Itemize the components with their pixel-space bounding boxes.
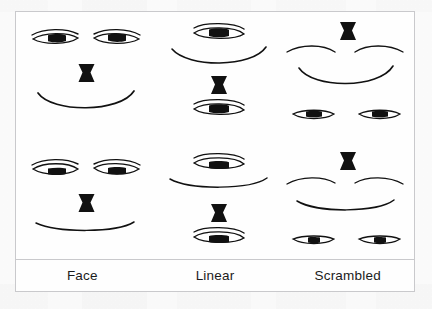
left-eye-icon: [293, 110, 334, 118]
right-brow-icon: [355, 46, 403, 52]
mouth-icon: [36, 222, 134, 230]
stimulus-scrambled-neutral: [279, 148, 411, 254]
left-brow-icon: [287, 178, 335, 184]
stimulus-drawing: [279, 148, 411, 254]
stimulus-drawing: [279, 16, 411, 130]
stimulus-drawing: [24, 152, 149, 252]
top-eye-icon: [194, 24, 244, 39]
stimuli-grid: [16, 12, 414, 259]
nose-icon: [211, 204, 227, 222]
right-eye-icon: [359, 110, 400, 118]
stimulus-face-neutral: [24, 152, 149, 252]
stimulus-drawing: [156, 18, 281, 130]
left-eye-icon: [293, 236, 334, 244]
right-eye-icon: [94, 160, 140, 175]
left-brow-icon: [287, 46, 335, 52]
bottom-eye-icon: [194, 100, 244, 115]
stimulus-linear-smiling: [156, 18, 281, 130]
left-eye-icon: [32, 30, 78, 44]
figure-frame: Face Linear Scrambled: [15, 11, 415, 292]
column-label-face: Face: [16, 260, 149, 291]
stimulus-scrambled-smiling: [279, 16, 411, 130]
left-eye-icon: [32, 160, 78, 175]
mouth-icon: [299, 66, 393, 84]
column-label-linear: Linear: [149, 260, 282, 291]
nose-icon: [79, 194, 95, 212]
stimulus-linear-neutral: [156, 150, 281, 254]
mouth-icon: [38, 91, 134, 108]
column-label-scrambled: Scrambled: [281, 260, 414, 291]
stimulus-drawing: [24, 20, 149, 130]
figure-container: Face Linear Scrambled: [0, 0, 432, 309]
right-eye-icon: [94, 30, 140, 44]
nose-icon: [211, 76, 227, 94]
nose-icon: [340, 152, 356, 170]
bottom-eye-icon: [194, 228, 244, 243]
nose-icon: [79, 64, 95, 82]
mouth-icon: [297, 200, 394, 210]
right-eye-icon: [359, 236, 400, 244]
right-brow-icon: [355, 178, 403, 184]
nose-icon: [340, 22, 356, 40]
top-eye-icon: [194, 154, 244, 169]
column-label-row: Face Linear Scrambled: [16, 260, 414, 291]
stimulus-face-smiling: [24, 20, 149, 130]
mouth-icon: [172, 47, 266, 63]
stimulus-drawing: [156, 150, 281, 254]
mouth-icon: [170, 178, 267, 187]
